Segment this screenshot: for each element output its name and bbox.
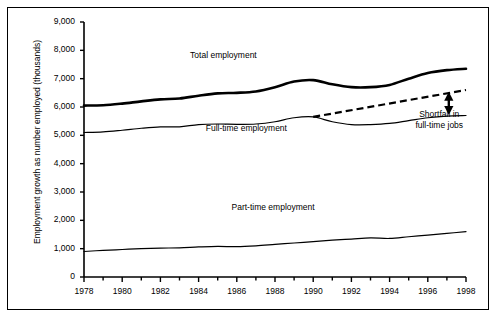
y-tick-label: 8,000 xyxy=(41,44,75,54)
data-series-group xyxy=(84,69,466,252)
y-tick-label: 0 xyxy=(41,271,75,281)
y-tick-label: 1,000 xyxy=(41,243,75,253)
x-tick-label: 1996 xyxy=(408,286,448,296)
axes-group xyxy=(84,22,466,277)
series-line-part-time-employment xyxy=(84,232,466,252)
x-tick-label: 1980 xyxy=(102,286,142,296)
x-tick-marks xyxy=(84,277,466,282)
x-tick-label: 1990 xyxy=(293,286,333,296)
y-tick-label: 5,000 xyxy=(41,129,75,139)
shortfall-label-line1: Shortfall in xyxy=(419,109,459,119)
y-tick-label: 9,000 xyxy=(41,16,75,26)
series-line-total-employment xyxy=(84,69,466,106)
y-tick-label: 2,000 xyxy=(41,214,75,224)
x-tick-label: 1998 xyxy=(446,286,486,296)
y-tick-label: 3,000 xyxy=(41,186,75,196)
x-tick-label: 1992 xyxy=(331,286,371,296)
part-time-employment-label: Part-time employment xyxy=(232,202,315,212)
y-tick-label: 6,000 xyxy=(41,101,75,111)
y-tick-label: 4,000 xyxy=(41,158,75,168)
total-employment-label: Total employment xyxy=(190,50,257,60)
x-tick-label: 1986 xyxy=(217,286,257,296)
x-tick-label: 1984 xyxy=(179,286,219,296)
y-tick-label: 7,000 xyxy=(41,73,75,83)
full-time-employment-label: Full-time employment xyxy=(206,123,287,133)
shortfall-label-line2: full-time jobs xyxy=(415,120,463,130)
x-tick-label: 1988 xyxy=(255,286,295,296)
x-tick-label: 1982 xyxy=(140,286,180,296)
x-tick-label: 1994 xyxy=(370,286,410,296)
x-tick-label: 1978 xyxy=(64,286,104,296)
